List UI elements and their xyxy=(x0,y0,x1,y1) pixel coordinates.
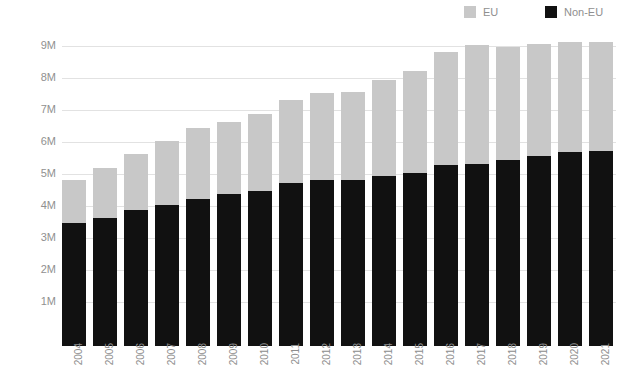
x-axis-tick-label: 2018 xyxy=(496,341,520,378)
legend-swatch-non-eu-icon xyxy=(545,6,557,18)
bar-group[interactable] xyxy=(434,30,458,340)
bar-segment-non-eu[interactable] xyxy=(403,173,427,346)
x-axis-tick-label: 2011 xyxy=(279,341,303,378)
x-axis-tick-label: 2006 xyxy=(124,341,148,378)
bar-segment-eu[interactable] xyxy=(186,128,210,198)
bar-segment-eu[interactable] xyxy=(465,45,489,163)
bar-segment-non-eu[interactable] xyxy=(372,176,396,346)
bar-segment-non-eu[interactable] xyxy=(310,180,334,346)
bar-segment-eu[interactable] xyxy=(589,42,613,151)
bar-segment-non-eu[interactable] xyxy=(496,160,520,346)
x-axis-tick-label: 2016 xyxy=(434,341,458,378)
y-axis-tick-label: 6M xyxy=(0,136,56,147)
bar-segment-eu[interactable] xyxy=(93,168,117,218)
x-axis-tick-label: 2021 xyxy=(589,341,613,378)
bar-segment-non-eu[interactable] xyxy=(589,151,613,346)
y-axis-tick-label: 8M xyxy=(0,72,56,83)
chart-legend: EU Non-EU xyxy=(0,6,622,24)
legend-item-non-eu[interactable]: Non-EU xyxy=(545,6,603,18)
x-axis-tick-label: 2012 xyxy=(310,341,334,378)
bar-segment-eu[interactable] xyxy=(341,92,365,180)
bar-segment-non-eu[interactable] xyxy=(434,165,458,346)
bar-series-container xyxy=(62,30,616,340)
bar-segment-eu[interactable] xyxy=(434,52,458,166)
x-axis-tick-label: 2005 xyxy=(93,341,117,378)
legend-item-eu[interactable]: EU xyxy=(464,6,498,18)
bar-group[interactable] xyxy=(465,30,489,340)
bar-segment-non-eu[interactable] xyxy=(155,205,179,346)
bar-group[interactable] xyxy=(93,30,117,340)
bar-group[interactable] xyxy=(248,30,272,340)
x-axis-tick-label: 2017 xyxy=(465,341,489,378)
x-axis-tick-label: 2015 xyxy=(403,341,427,378)
x-axis-tick-label: 2008 xyxy=(186,341,210,378)
bar-segment-non-eu[interactable] xyxy=(279,183,303,346)
bar-group[interactable] xyxy=(186,30,210,340)
y-axis-tick-label: 1M xyxy=(0,296,56,307)
x-axis-tick-label: 2010 xyxy=(248,341,272,378)
bar-group[interactable] xyxy=(589,30,613,340)
bar-segment-non-eu[interactable] xyxy=(186,199,210,346)
bar-segment-eu[interactable] xyxy=(62,180,86,223)
x-axis: 2004200520062007200820092010201120122013… xyxy=(62,341,616,378)
bar-segment-non-eu[interactable] xyxy=(527,156,551,346)
x-axis-tick-label: 2004 xyxy=(62,341,86,378)
bar-segment-non-eu[interactable] xyxy=(62,223,86,346)
plot-area xyxy=(62,30,616,340)
bar-group[interactable] xyxy=(496,30,520,340)
y-axis-tick-label: 5M xyxy=(0,168,56,179)
bar-group[interactable] xyxy=(279,30,303,340)
bar-segment-non-eu[interactable] xyxy=(558,152,582,346)
bar-segment-eu[interactable] xyxy=(496,47,520,161)
bar-segment-eu[interactable] xyxy=(403,71,427,173)
bar-group[interactable] xyxy=(558,30,582,340)
bar-group[interactable] xyxy=(217,30,241,340)
bar-segment-non-eu[interactable] xyxy=(248,191,272,346)
bar-group[interactable] xyxy=(527,30,551,340)
x-axis-tick-label: 2009 xyxy=(217,341,241,378)
bar-group[interactable] xyxy=(310,30,334,340)
bar-segment-non-eu[interactable] xyxy=(341,180,365,346)
bar-group[interactable] xyxy=(403,30,427,340)
bar-segment-non-eu[interactable] xyxy=(124,210,148,346)
bar-group[interactable] xyxy=(155,30,179,340)
bar-segment-non-eu[interactable] xyxy=(465,164,489,346)
bar-segment-non-eu[interactable] xyxy=(93,218,117,346)
stacked-bar-chart: EU Non-EU 1M2M3M4M5M6M7M8M9M 20042005200… xyxy=(0,0,622,378)
bar-segment-non-eu[interactable] xyxy=(217,194,241,346)
bar-segment-eu[interactable] xyxy=(155,141,179,205)
bar-group[interactable] xyxy=(372,30,396,340)
bar-group[interactable] xyxy=(341,30,365,340)
y-axis-tick-label: 9M xyxy=(0,40,56,51)
x-axis-tick-label: 2014 xyxy=(372,341,396,378)
bar-segment-eu[interactable] xyxy=(248,114,272,191)
y-axis-tick-label: 3M xyxy=(0,232,56,243)
bar-segment-eu[interactable] xyxy=(279,100,303,183)
y-axis-tick-label: 7M xyxy=(0,104,56,115)
bar-segment-eu[interactable] xyxy=(124,154,148,210)
bar-group[interactable] xyxy=(124,30,148,340)
x-axis-tick-label: 2013 xyxy=(341,341,365,378)
x-axis-tick-label: 2020 xyxy=(558,341,582,378)
x-axis-tick-label: 2007 xyxy=(155,341,179,378)
bar-segment-eu[interactable] xyxy=(372,80,396,176)
y-axis-tick-label: 2M xyxy=(0,264,56,275)
bar-segment-eu[interactable] xyxy=(558,42,582,152)
legend-swatch-eu-icon xyxy=(464,6,476,18)
x-axis-tick-label: 2019 xyxy=(527,341,551,378)
y-axis-tick-label: 4M xyxy=(0,200,56,211)
bar-segment-eu[interactable] xyxy=(310,93,334,179)
bar-group[interactable] xyxy=(62,30,86,340)
y-axis: 1M2M3M4M5M6M7M8M9M xyxy=(0,30,56,350)
legend-label-eu: EU xyxy=(483,6,498,18)
bar-segment-eu[interactable] xyxy=(217,122,241,194)
bar-segment-eu[interactable] xyxy=(527,44,551,156)
legend-label-non-eu: Non-EU xyxy=(564,6,603,18)
